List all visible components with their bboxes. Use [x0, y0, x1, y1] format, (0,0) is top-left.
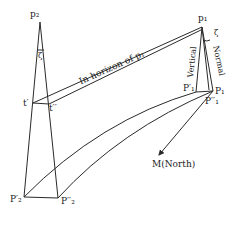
label-P1-double-prime: P′′₁ — [205, 97, 219, 106]
label-zeta-left: ζ — [38, 52, 42, 60]
label-P2-double-prime: P′′₂ — [61, 197, 75, 206]
label-P1-prime: P′₁ — [183, 84, 195, 93]
label-p2: p₂ — [30, 10, 39, 19]
label-north: M(North) — [152, 160, 195, 169]
p2-base — [24, 197, 58, 198]
vertical-line — [196, 27, 202, 92]
diagram-canvas — [0, 0, 238, 229]
normal-line — [202, 27, 213, 91]
label-P1: P₁ — [215, 87, 225, 96]
inner-line — [202, 27, 209, 90]
p2-left-edge — [24, 22, 40, 197]
horizon-line-2 — [49, 29, 203, 104]
zeta-arc-right — [203, 40, 210, 41]
label-t-prime: t′ — [23, 99, 29, 108]
label-zeta-right: ζ — [214, 29, 218, 37]
curve-to-P2-double-prime — [58, 91, 213, 198]
label-t-double-prime: t′′ — [49, 104, 57, 113]
t-line — [33, 103, 49, 104]
label-P2-prime: P′₂ — [10, 195, 22, 204]
label-p1-top: p₁ — [198, 14, 207, 23]
